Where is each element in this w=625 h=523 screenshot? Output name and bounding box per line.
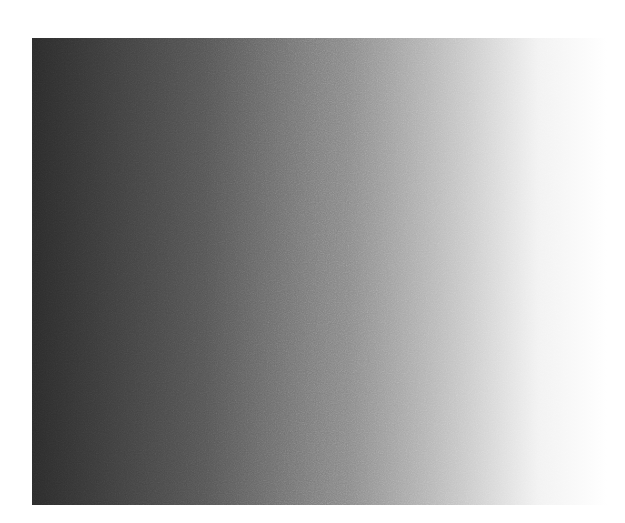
- gradient-panel: [32, 38, 607, 505]
- image-canvas: [0, 0, 625, 523]
- noise-texture: [32, 38, 607, 505]
